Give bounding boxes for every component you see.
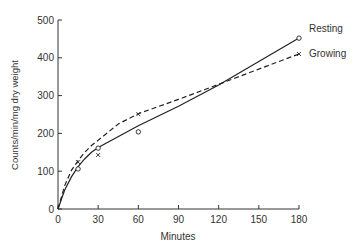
legend-resting: Resting	[309, 23, 343, 34]
y-tick-label: 300	[37, 90, 54, 101]
x-marker	[96, 153, 100, 157]
legend-growing: Growing	[309, 48, 346, 59]
y-axis-label: Counts/min/mg dry weight	[9, 60, 20, 170]
line-resting	[58, 38, 299, 209]
legend: RestingGrowing	[309, 23, 346, 59]
x-tick-label: 150	[250, 214, 267, 225]
y-tick-label: 500	[37, 15, 54, 26]
y-tick-label: 400	[37, 52, 54, 63]
circle-marker	[136, 130, 140, 134]
tick-labels: 01002003004005000306090120150180	[37, 15, 307, 226]
x-tick-label: 90	[173, 214, 185, 225]
x-tick-label: 60	[133, 214, 145, 225]
circle-marker	[96, 146, 100, 150]
y-tick-label: 200	[37, 128, 54, 139]
x-tick-label: 30	[93, 214, 105, 225]
circle-marker	[76, 167, 80, 171]
line-chart: 01002003004005000306090120150180 Resting…	[0, 0, 357, 250]
series-lines	[58, 38, 299, 209]
axes	[58, 20, 299, 209]
x-tick-label: 0	[55, 214, 61, 225]
line-growing	[58, 54, 299, 209]
x-tick-label: 120	[210, 214, 227, 225]
circle-marker	[297, 36, 301, 40]
x-tick-label: 180	[291, 214, 308, 225]
y-tick-label: 0	[48, 204, 54, 215]
y-tick-label: 100	[37, 166, 54, 177]
x-axis-label: Minutes	[160, 231, 195, 242]
